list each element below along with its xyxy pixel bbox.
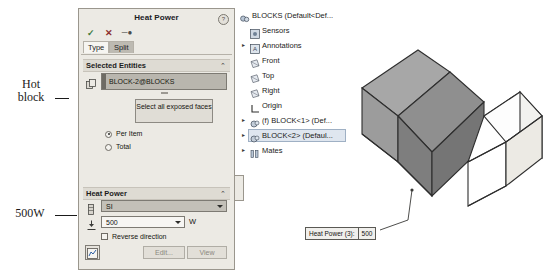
panel-title: Heat Power xyxy=(81,13,232,22)
radio-icon-selected[interactable] xyxy=(105,131,112,138)
leader-line-power xyxy=(55,215,77,216)
tree-item-sensors[interactable]: Sensors xyxy=(240,23,346,38)
tree-item-right[interactable]: Right xyxy=(240,83,346,98)
tab-type[interactable]: Type xyxy=(83,41,109,53)
unit-symbol-label: W xyxy=(189,216,196,228)
tree-label-right: Right xyxy=(262,83,280,98)
view-button[interactable]: View xyxy=(187,246,227,259)
checkbox-icon-reverse-direction[interactable] xyxy=(101,233,108,240)
section-title-heat-power: Heat Power xyxy=(86,188,127,199)
plane-icon-right xyxy=(250,85,260,95)
section-title-selected-entities: Selected Entities xyxy=(86,60,146,71)
units-dropdown-value: SI xyxy=(106,201,113,212)
part-icon-block-1 xyxy=(250,115,260,125)
annotations-icon: A xyxy=(250,40,260,50)
tree-label-mates: Mates xyxy=(262,143,282,158)
radio-label-total: Total xyxy=(116,142,131,152)
chevron-down-icon-value[interactable] xyxy=(175,221,181,224)
expander-icon-block-1[interactable]: ▸ xyxy=(240,117,246,124)
selected-entity-item[interactable]: BLOCK-2@BLOCKS xyxy=(109,74,174,89)
tree-item-origin[interactable]: Origin xyxy=(240,98,346,113)
tree-item-mates[interactable]: ▸ Mates xyxy=(240,143,346,158)
callout-leader-line xyxy=(380,190,412,230)
selected-entity-listbox[interactable]: BLOCK-2@BLOCKS xyxy=(101,73,227,90)
panel-command-row: ✓ ✕ ─● xyxy=(85,27,185,39)
tree-label-block-2: BLOCK<2> (Defaul... xyxy=(262,128,333,143)
chevron-up-icon-heat-power[interactable]: ⌃ xyxy=(220,188,226,199)
heat-power-callout[interactable]: Heat Power (3): 500 xyxy=(305,227,376,240)
chevron-up-icon[interactable]: ⌃ xyxy=(220,60,226,71)
annotation-hot-block-line2: block xyxy=(8,91,54,104)
callout-label: Heat Power (3): xyxy=(306,228,358,239)
assembly-icon xyxy=(240,10,250,20)
origin-icon xyxy=(250,100,260,110)
leader-line-hot-block xyxy=(55,98,69,99)
resize-grip[interactable] xyxy=(161,92,168,94)
tab-split[interactable]: Split xyxy=(109,41,134,53)
selected-entities-body: BLOCK-2@BLOCKS Select all exposed faces … xyxy=(83,71,230,183)
chevron-down-icon-units[interactable] xyxy=(217,205,223,208)
tree-label-origin: Origin xyxy=(262,98,282,113)
radio-label-per-item: Per Item xyxy=(116,129,142,139)
reverse-direction-label: Reverse direction xyxy=(112,232,166,241)
heat-power-body: SI 500 W Reverse direc xyxy=(83,199,230,267)
panel-side-nub xyxy=(235,175,244,201)
tree-label-top: Top xyxy=(262,68,274,83)
expander-icon-block-2[interactable]: ▸ xyxy=(240,132,246,139)
cancel-x-icon[interactable]: ✕ xyxy=(103,27,115,39)
body-hot-block[interactable] xyxy=(362,50,484,196)
svg-text:A: A xyxy=(253,46,257,52)
sensors-icon xyxy=(250,25,260,35)
tree-label-front: Front xyxy=(262,53,280,68)
heat-power-value-input[interactable]: 500 xyxy=(101,216,185,228)
callout-anchor-point xyxy=(410,188,413,191)
panel-tabs: Type Split xyxy=(81,41,232,55)
units-icon xyxy=(87,201,96,212)
annotation-hot-block: Hot block xyxy=(8,78,54,104)
annotation-power: 500W xyxy=(6,207,54,220)
accept-checkmark-icon[interactable]: ✓ xyxy=(85,27,97,39)
radio-icon-unselected[interactable] xyxy=(105,144,112,151)
tree-label-block-1: (f) BLOCK<1> (Def... xyxy=(262,113,332,128)
expander-icon-annotations[interactable]: ▸ xyxy=(240,42,246,49)
tree-item-block-1[interactable]: ▸ (f) BLOCK<1> (Def... xyxy=(240,113,346,128)
screenshot-root: Hot block 500W Heat Power ? ✓ ✕ ─● Type … xyxy=(0,0,560,279)
tree-label-annotations: Annotations xyxy=(262,38,302,53)
heat-power-value-icon xyxy=(87,217,96,228)
tree-item-annotations[interactable]: ▸ A Annotations xyxy=(240,38,346,53)
3d-model-svg[interactable] xyxy=(350,30,560,270)
tree-item-top[interactable]: Top xyxy=(240,68,346,83)
select-all-exposed-faces-button[interactable]: Select all exposed faces xyxy=(135,99,213,123)
part-icon-block-2 xyxy=(250,130,260,140)
plane-icon-top xyxy=(250,70,260,80)
heat-power-value-text[interactable]: 500 xyxy=(106,217,118,228)
graphics-viewport[interactable] xyxy=(350,30,560,270)
help-icon[interactable]: ? xyxy=(218,14,229,25)
expander-icon-mates[interactable]: ▸ xyxy=(240,147,246,154)
entity-color-bar xyxy=(102,74,106,89)
pin-icon[interactable]: ─● xyxy=(121,27,133,39)
graph-editor-button[interactable] xyxy=(85,245,100,260)
tree-item-front[interactable]: Front xyxy=(240,53,346,68)
tree-label-sensors: Sensors xyxy=(262,23,290,38)
edit-button[interactable]: Edit... xyxy=(143,246,185,259)
feature-tree: BLOCKS (Default<Def... Sensors ▸ A Annot… xyxy=(240,8,346,158)
units-dropdown[interactable]: SI xyxy=(101,200,227,212)
mates-icon xyxy=(250,145,260,155)
tree-item-block-2[interactable]: ▸ BLOCK<2> (Defaul... xyxy=(240,128,346,143)
property-manager-panel: Heat Power ? ✓ ✕ ─● Type Split Selected … xyxy=(78,8,235,270)
faces-icon xyxy=(86,76,97,87)
tree-item-blocks[interactable]: BLOCKS (Default<Def... xyxy=(240,8,346,23)
callout-value: 500 xyxy=(358,228,376,239)
plane-icon-front xyxy=(250,55,260,65)
tree-label-blocks: BLOCKS (Default<Def... xyxy=(252,8,333,23)
